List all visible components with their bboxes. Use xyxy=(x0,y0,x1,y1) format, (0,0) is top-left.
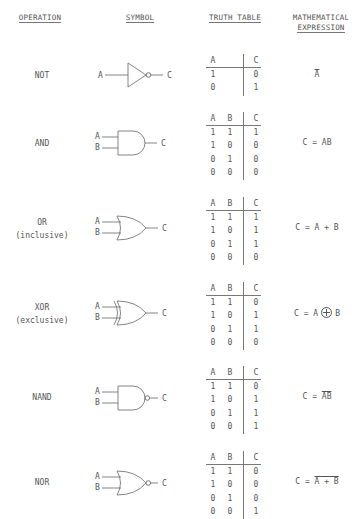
nand-gate-icon: A B C xyxy=(88,373,188,423)
table-row: 000 xyxy=(206,166,266,180)
svg-text:B: B xyxy=(95,483,100,492)
header-operation: OPERATION xyxy=(10,13,70,23)
expression-left: C = A xyxy=(294,309,318,318)
symbol-and: A B C xyxy=(88,118,188,168)
header-truth-table-text: TRUTH TABLE xyxy=(209,13,261,23)
expression-text: C = A + B xyxy=(295,223,338,232)
svg-text:B: B xyxy=(95,398,100,407)
xor-gate-icon: A B C xyxy=(88,288,188,338)
operation-nand: NAND xyxy=(0,391,84,404)
operation-name: NOR xyxy=(0,476,84,489)
truth-table-header: A B C xyxy=(206,112,266,126)
table-row: 001 xyxy=(206,505,266,519)
operation-and: AND xyxy=(0,137,84,150)
table-row: 100 xyxy=(206,478,266,492)
expression-text: C = AB xyxy=(303,138,332,147)
svg-text:B: B xyxy=(95,228,100,237)
table-row: 011 xyxy=(206,238,266,252)
svg-text:A: A xyxy=(95,472,100,481)
truth-table-not: A C 10 01 xyxy=(206,54,266,95)
header-math-expression: MATHEMATICAL EXPRESSION xyxy=(288,13,354,33)
header-operation-text: OPERATION xyxy=(19,13,61,23)
svg-text:A: A xyxy=(95,132,100,141)
table-row: 101 xyxy=(206,224,266,238)
table-row: 101 xyxy=(206,309,266,323)
svg-text:C: C xyxy=(162,479,167,488)
header-truth-table: TRUTH TABLE xyxy=(200,13,270,23)
symbol-not: A C xyxy=(88,50,188,100)
not-gate-icon: A C xyxy=(88,50,188,100)
operation-not: NOT xyxy=(0,69,84,82)
table-row: 110 xyxy=(206,380,266,394)
table-row: 10 xyxy=(206,68,266,82)
svg-text:A: A xyxy=(95,302,100,311)
and-gate-icon: A B C xyxy=(88,118,188,168)
truth-table-header: A B C xyxy=(206,366,266,380)
truth-table-header: A B C xyxy=(206,282,266,296)
table-row: 111 xyxy=(206,126,266,140)
operation-name: OR xyxy=(0,216,84,229)
svg-text:C: C xyxy=(162,309,167,318)
svg-text:A: A xyxy=(98,71,103,80)
svg-text:C: C xyxy=(162,394,167,403)
symbol-xor: A B C xyxy=(88,288,188,338)
operation-or: OR (inclusive) xyxy=(0,216,84,242)
expression-overlined: AB xyxy=(322,392,332,401)
expression-overlined: A + B xyxy=(315,477,339,486)
table-row: 110 xyxy=(206,465,266,479)
table-row: 111 xyxy=(206,211,266,225)
operation-name: NAND xyxy=(0,391,84,404)
table-row: 100 xyxy=(206,139,266,153)
truth-table-or: A B C 111 101 011 000 xyxy=(206,197,266,265)
header-math-line1: MATHEMATICAL xyxy=(293,13,350,22)
truth-table-header: A B C xyxy=(206,197,266,211)
table-row: 000 xyxy=(206,251,266,265)
svg-text:C: C xyxy=(162,224,167,233)
truth-table-header: A B C xyxy=(206,451,266,465)
truth-table-nand: A B C 110 101 011 001 xyxy=(206,366,266,434)
symbol-nand: A B C xyxy=(88,373,188,423)
operation-nor: NOR xyxy=(0,476,84,489)
table-row: 011 xyxy=(206,407,266,421)
or-gate-icon: A B C xyxy=(88,203,188,253)
svg-text:C: C xyxy=(167,71,172,80)
table-row: 01 xyxy=(206,81,266,95)
truth-table-nor: A B C 110 100 010 001 xyxy=(206,451,266,519)
svg-text:B: B xyxy=(95,313,100,322)
symbol-or: A B C xyxy=(88,203,188,253)
table-row: 000 xyxy=(206,336,266,350)
svg-text:A: A xyxy=(95,387,100,396)
svg-text:C: C xyxy=(161,139,166,148)
expression-text: A xyxy=(315,70,320,79)
truth-table-xor: A B C 110 101 011 000 xyxy=(206,282,266,350)
truth-table-header: A C xyxy=(206,54,266,68)
table-row: 010 xyxy=(206,492,266,506)
header-symbol-text: SYMBOL xyxy=(126,13,154,23)
svg-text:B: B xyxy=(95,143,100,152)
expression-xor: C = AB xyxy=(280,307,354,320)
expression-nand: C = AB xyxy=(280,391,354,403)
operation-name: AND xyxy=(0,137,84,150)
expression-prefix: C = xyxy=(295,477,314,486)
expression-not: A xyxy=(280,69,354,81)
expression-nor: C = A + B xyxy=(280,476,354,488)
header-math-line2: EXPRESSION xyxy=(297,23,344,33)
expression-or: C = A + B xyxy=(280,222,354,234)
nor-gate-icon: A B C xyxy=(88,458,188,508)
col-c: C xyxy=(251,54,261,67)
xor-circle-plus-icon xyxy=(321,307,332,318)
svg-text:A: A xyxy=(95,217,100,226)
expression-and: C = AB xyxy=(280,137,354,149)
operation-name: XOR xyxy=(0,301,84,314)
table-row: 101 xyxy=(206,393,266,407)
operation-xor: XOR (exclusive) xyxy=(0,301,84,327)
col-a: A xyxy=(208,54,218,67)
operation-subtitle: (exclusive) xyxy=(0,314,84,327)
expression-right: B xyxy=(335,309,340,318)
header-symbol: SYMBOL xyxy=(110,13,170,23)
truth-table-and: A B C 111 100 010 000 xyxy=(206,112,266,180)
table-row: 001 xyxy=(206,420,266,434)
table-row: 010 xyxy=(206,153,266,167)
operation-name: NOT xyxy=(0,69,84,82)
expression-prefix: C = xyxy=(303,392,322,401)
